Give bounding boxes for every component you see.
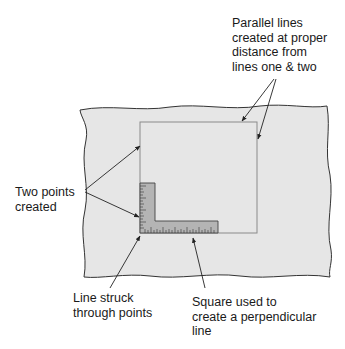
label-two-points: Two points created <box>15 185 75 214</box>
label-parallel-lines: Parallel lines created at proper distanc… <box>232 16 327 74</box>
label-square-used: Square used to create a perpendicular li… <box>192 295 316 339</box>
label-line-struck: Line struck through points <box>73 291 152 320</box>
paper-sheet <box>80 105 331 277</box>
